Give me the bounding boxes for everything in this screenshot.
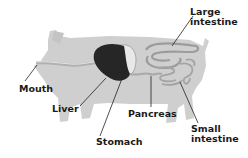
label-mouth: Mouth	[19, 84, 53, 94]
leader-mouth	[25, 65, 37, 81]
label-pancreas: Pancreas	[128, 109, 177, 119]
label-liver: Liver	[52, 104, 79, 114]
label-small-intestine: Small intestine	[191, 124, 239, 144]
label-stomach: Stomach	[96, 137, 143, 147]
label-large-intestine: Large intestine	[190, 7, 238, 27]
duodenum	[130, 73, 162, 74]
